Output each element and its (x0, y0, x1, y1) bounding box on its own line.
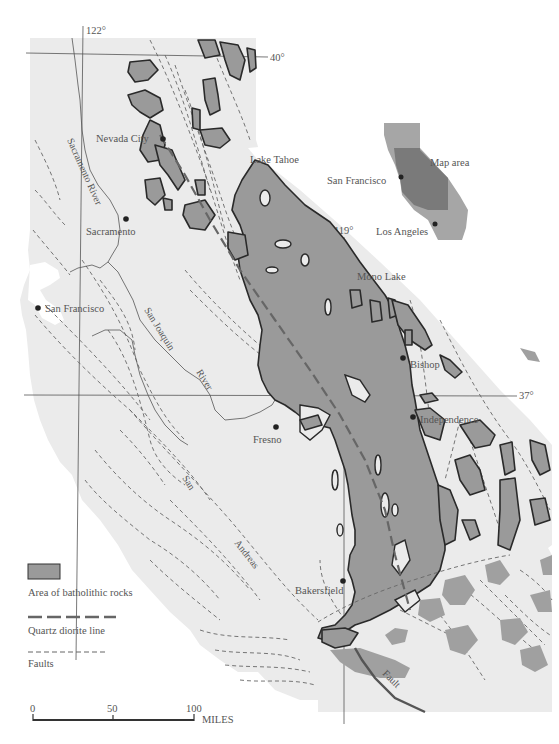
legend-quartz-diorite-label: Quartz diorite line (28, 625, 105, 636)
scale-bar: 0 50 100 MILES (30, 703, 234, 725)
legend-batholith-swatch (28, 564, 60, 579)
label-lake-tahoe: Lake Tahoe (250, 154, 299, 165)
lat-40-label: 40° (270, 52, 285, 63)
legend-batholith-label: Area of batholithic rocks (28, 587, 133, 598)
label-bishop: Bishop (410, 359, 440, 370)
scale-unit: MILES (202, 714, 234, 725)
scale-tick-100: 100 (186, 703, 202, 714)
inset-label-los-angeles: Los Angeles (376, 226, 428, 237)
label-sacramento: Sacramento (86, 226, 136, 237)
geologic-map: 122° 40° 119° 37° (0, 0, 559, 744)
scale-tick-0: 0 (30, 703, 35, 714)
label-bakersfield: Bakersfield (295, 585, 344, 596)
label-independence: Independence (420, 414, 479, 425)
lat-37-label: 37° (519, 390, 534, 401)
label-san-francisco: San Francisco (45, 303, 104, 314)
inset-label-san-francisco: San Francisco (327, 175, 386, 186)
legend: Area of batholithic rocks Quartz diorite… (28, 564, 133, 669)
label-nevada-city: Nevada City (96, 133, 150, 144)
scale-tick-50: 50 (107, 703, 118, 714)
label-mono-lake: Mono Lake (357, 271, 406, 282)
label-fresno: Fresno (253, 434, 282, 445)
legend-faults-label: Faults (28, 658, 54, 669)
inset-california-map (384, 123, 468, 240)
lon-122-label: 122° (86, 25, 106, 36)
inset-label-map-area: Map area (430, 157, 470, 168)
